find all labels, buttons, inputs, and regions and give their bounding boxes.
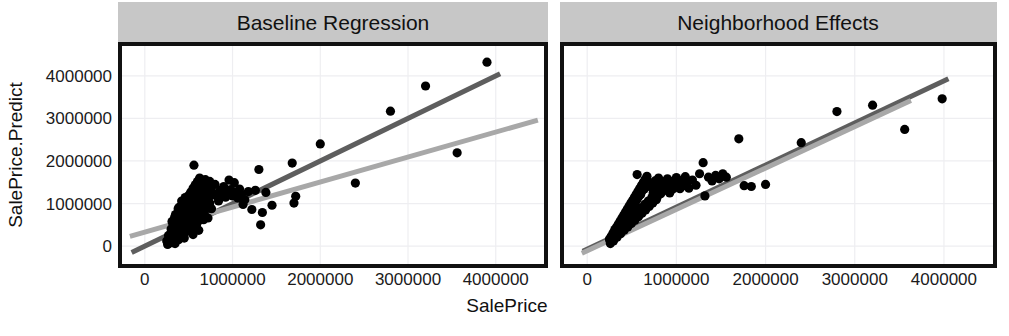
y-tick-label: 1000000 [46, 195, 112, 214]
x-axis-title: SalePrice [466, 295, 547, 316]
data-point [192, 212, 201, 221]
data-point [482, 58, 491, 67]
panel-title-neighborhood: Neighborhood Effects [677, 11, 879, 34]
x-tick-label: 4000000 [463, 270, 529, 289]
data-point [351, 179, 360, 188]
x-tick-label: 3000000 [822, 270, 888, 289]
data-point [168, 225, 177, 234]
data-point [288, 158, 297, 167]
x-tick-label: 2000000 [287, 270, 353, 289]
x-tick-label: 2000000 [732, 270, 798, 289]
data-point [900, 125, 909, 134]
panel-title-baseline: Baseline Regression [237, 11, 430, 34]
panel-baseline: Baseline Regression 01000000200000030000… [118, 2, 548, 289]
x-tick-label: 0 [582, 270, 591, 289]
y-tick-label: 3000000 [46, 109, 112, 128]
data-point [205, 177, 214, 186]
data-point [254, 165, 263, 174]
data-point [421, 81, 430, 90]
data-point [868, 101, 877, 110]
y-tick-label: 2000000 [46, 152, 112, 171]
data-point [199, 206, 208, 215]
data-point [797, 138, 806, 147]
panel-neighborhood: Neighborhood Effects 0100000020000003000… [560, 2, 997, 289]
data-point [695, 169, 704, 178]
data-point [832, 107, 841, 116]
x-tick-label: 4000000 [911, 270, 977, 289]
data-point [691, 181, 700, 190]
data-point [699, 158, 708, 167]
y-tick-label: 4000000 [46, 67, 112, 86]
data-point [700, 191, 709, 200]
data-point [291, 192, 300, 201]
data-point [256, 220, 265, 229]
data-point [189, 191, 198, 200]
data-point [316, 139, 325, 148]
regression-comparison-figure: Baseline Regression 01000000200000030000… [0, 0, 1009, 336]
data-point [633, 170, 642, 179]
data-point [669, 184, 678, 193]
x-tick-label: 1000000 [199, 270, 265, 289]
data-point [194, 226, 203, 235]
data-point [170, 239, 179, 248]
data-point [267, 201, 276, 210]
data-point [247, 205, 256, 214]
data-point [184, 201, 193, 210]
data-point [240, 195, 249, 204]
data-point [386, 107, 395, 116]
figure-canvas: Baseline Regression 01000000200000030000… [0, 0, 1009, 336]
data-point [453, 148, 462, 157]
x-tick-label: 1000000 [643, 270, 709, 289]
data-point [261, 188, 270, 197]
y-tick-label: 0 [103, 237, 112, 256]
data-point [734, 134, 743, 143]
data-point [761, 180, 770, 189]
data-point [189, 161, 198, 170]
data-point [938, 94, 947, 103]
x-tick-label: 3000000 [375, 270, 441, 289]
data-point [251, 186, 260, 195]
data-point [202, 197, 211, 206]
data-point [747, 182, 756, 191]
y-axis-title: SalePrice.Predict [5, 81, 26, 227]
data-point [197, 188, 206, 197]
data-point [258, 208, 267, 217]
data-point [722, 173, 731, 182]
x-tick-label: 0 [140, 270, 149, 289]
